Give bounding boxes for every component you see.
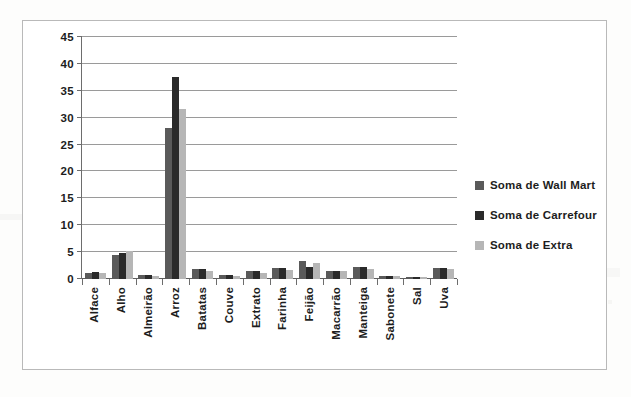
x-axis-labels: AlfaceAlhoAlmeirãoArrozBatatasCouveExtra… (81, 285, 457, 371)
bar[interactable] (179, 109, 186, 279)
y-tick-label: 25 (61, 139, 74, 151)
scan-artifact (0, 214, 22, 220)
y-tick-label: 40 (61, 58, 74, 70)
x-label-cell: Alho (108, 285, 135, 371)
x-axis-category-label: Feijão (303, 287, 315, 321)
bar-group (296, 37, 323, 279)
bar-group (350, 37, 377, 279)
x-label-cell: Uva (430, 285, 457, 371)
x-axis-category-label: Couve (223, 287, 235, 323)
bar[interactable] (199, 269, 206, 279)
x-axis-category-label: Arroz (169, 287, 181, 318)
x-label-cell: Almeirão (135, 285, 162, 371)
bar[interactable] (126, 251, 133, 279)
bar[interactable] (286, 270, 293, 279)
chart-legend: Soma de Wall MartSoma de CarrefourSoma d… (475, 179, 615, 269)
bar-group (136, 37, 163, 279)
bar[interactable] (326, 271, 333, 279)
legend-label: Soma de Wall Mart (490, 179, 595, 191)
x-axis-category-label: Macarrão (330, 287, 342, 340)
x-label-cell: Alface (81, 285, 108, 371)
x-label-cell: Macarrão (323, 285, 350, 371)
legend-swatch-icon (475, 241, 484, 250)
x-axis-category-label: Alface (88, 287, 100, 323)
y-tick-label: 0 (67, 273, 74, 285)
bar[interactable] (119, 253, 126, 279)
x-label-cell: Extrato (242, 285, 269, 371)
x-axis-category-label: Batatas (196, 287, 208, 330)
legend-item[interactable]: Soma de Carrefour (475, 209, 615, 221)
x-label-cell: Arroz (162, 285, 189, 371)
plot-area: 051015202530354045 (81, 37, 457, 279)
y-tick-mark (77, 90, 82, 91)
plot-area-wrapper: 051015202530354045 (81, 37, 457, 279)
legend-label: Soma de Carrefour (490, 209, 597, 221)
bar[interactable] (165, 128, 172, 279)
x-label-cell: Sabonete (376, 285, 403, 371)
bar[interactable] (112, 255, 119, 279)
x-axis-category-label: Farinha (276, 287, 288, 330)
bar[interactable] (367, 269, 374, 279)
legend-swatch-icon (475, 211, 484, 220)
x-axis-category-label: Alho (115, 287, 127, 313)
bar[interactable] (272, 268, 279, 279)
legend-label: Soma de Extra (490, 239, 573, 251)
bar-group (162, 37, 189, 279)
bar[interactable] (333, 271, 340, 279)
x-tick-mark (457, 279, 458, 285)
legend-item[interactable]: Soma de Extra (475, 239, 615, 251)
bar[interactable] (253, 271, 260, 279)
y-tick-label: 15 (61, 192, 74, 204)
bar[interactable] (306, 267, 313, 279)
bar[interactable] (206, 271, 213, 279)
scan-artifact (608, 300, 612, 304)
bar-group (377, 37, 404, 279)
bar[interactable] (246, 271, 253, 279)
bar[interactable] (440, 268, 447, 279)
bar-group (323, 37, 350, 279)
y-tick-label: 35 (61, 85, 74, 97)
x-axis-category-label: Uva (438, 287, 450, 309)
bar[interactable] (279, 268, 286, 279)
bar-group (189, 37, 216, 279)
x-label-cell: Batatas (188, 285, 215, 371)
x-label-cell: Feijão (296, 285, 323, 371)
y-tick-mark (77, 224, 82, 225)
bar-group (403, 37, 430, 279)
y-tick-mark (77, 251, 82, 252)
y-tick-label: 30 (61, 112, 74, 124)
bar[interactable] (313, 263, 320, 279)
bar[interactable] (433, 268, 440, 279)
x-label-cell: Sal (403, 285, 430, 371)
y-tick-mark (77, 278, 82, 279)
bar-groups (82, 37, 457, 279)
bar-group (430, 37, 457, 279)
x-axis-category-label: Sal (411, 287, 423, 305)
bar[interactable] (192, 269, 199, 279)
bar-group (269, 37, 296, 279)
y-tick-mark (77, 63, 82, 64)
bar[interactable] (92, 272, 99, 279)
bar[interactable] (353, 267, 360, 279)
x-axis-category-label: Almeirão (142, 287, 154, 338)
legend-item[interactable]: Soma de Wall Mart (475, 179, 615, 191)
y-tick-mark (77, 144, 82, 145)
y-tick-mark (77, 197, 82, 198)
y-tick-mark (77, 36, 82, 37)
x-label-cell: Couve (215, 285, 242, 371)
bar[interactable] (447, 269, 454, 279)
y-tick-label: 20 (61, 165, 74, 177)
bar[interactable] (340, 271, 347, 279)
bar[interactable] (360, 267, 367, 279)
y-tick-label: 45 (61, 31, 74, 43)
x-label-cell: Manteiga (350, 285, 377, 371)
x-axis-category-label: Manteiga (357, 287, 369, 338)
bar[interactable] (299, 261, 306, 279)
bar-group (82, 37, 109, 279)
scanned-page: 051015202530354045 AlfaceAlhoAlmeirãoArr… (0, 0, 631, 397)
x-axis-category-label: Sabonete (384, 287, 396, 340)
x-axis-category-label: Extrato (250, 287, 262, 328)
bar-group (109, 37, 136, 279)
x-label-cell: Farinha (269, 285, 296, 371)
bar[interactable] (172, 77, 179, 279)
